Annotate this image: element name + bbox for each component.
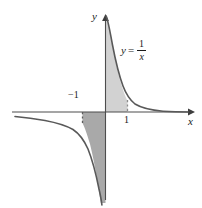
- plot-svg: [0, 0, 202, 208]
- curve-equation-fraction: 1 x: [137, 39, 146, 62]
- curve-equation-lhs: y: [121, 45, 126, 56]
- tick-label-negative-one: −1: [68, 90, 79, 100]
- x-axis-label: x: [188, 116, 193, 127]
- fraction-numerator: 1: [137, 39, 146, 50]
- fraction-denominator: x: [137, 51, 145, 62]
- curve-equation-label: y = 1 x: [121, 39, 146, 62]
- curve-equation-equals: =: [128, 45, 134, 56]
- y-axis-label: y: [92, 11, 97, 22]
- tick-label-positive-one: 1: [124, 115, 129, 125]
- graph-figure: y x −1 1 y = 1 x: [0, 0, 202, 208]
- shaded-region-quadrant-three: [83, 112, 106, 203]
